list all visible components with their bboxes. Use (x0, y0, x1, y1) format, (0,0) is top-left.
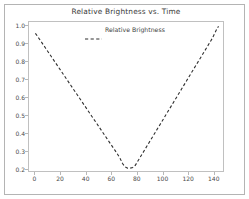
data-series-relative-brightness (35, 26, 218, 168)
y-axis-tick-labels: 0.20.30.40.50.60.70.80.91.0 (6, 21, 25, 172)
y-axis-tick-label: 0.2 (15, 166, 25, 173)
plot-svg (29, 22, 225, 173)
y-axis-tick-label: 0.7 (15, 76, 25, 83)
y-axis-tick-label: 0.9 (15, 40, 25, 47)
x-axis-tick-label: 100 (157, 175, 168, 183)
x-axis-tick-label: 20 (56, 175, 64, 183)
plot-area (28, 21, 224, 172)
chart-legend: Relative Brightness (83, 25, 167, 34)
x-axis-tick-labels: 020406080100120140 (28, 175, 224, 187)
y-axis-tick-label: 0.6 (15, 94, 25, 101)
x-axis-tick-label: 80 (133, 175, 141, 183)
x-axis-tick-label: 0 (32, 175, 36, 183)
x-axis-tick-label: 140 (208, 175, 219, 183)
y-axis-tick-label: 0.4 (15, 130, 25, 137)
y-axis-tick-label: 1.0 (15, 22, 25, 29)
chart-figure: Relative Brightness vs. Time 0.20.30.40.… (0, 0, 249, 199)
x-axis-tick-label: 60 (107, 175, 115, 183)
y-axis-tick-label: 0.3 (15, 148, 25, 155)
y-axis-tick-label: 0.8 (15, 58, 25, 65)
x-axis-tick-label: 40 (82, 175, 90, 183)
x-axis-tick-label: 120 (182, 175, 193, 183)
legend-entry-label: Relative Brightness (105, 26, 165, 33)
legend-dashed-line-icon (85, 27, 102, 33)
y-axis-tick-label: 0.5 (15, 112, 25, 119)
chart-title: Relative Brightness vs. Time (28, 7, 224, 16)
